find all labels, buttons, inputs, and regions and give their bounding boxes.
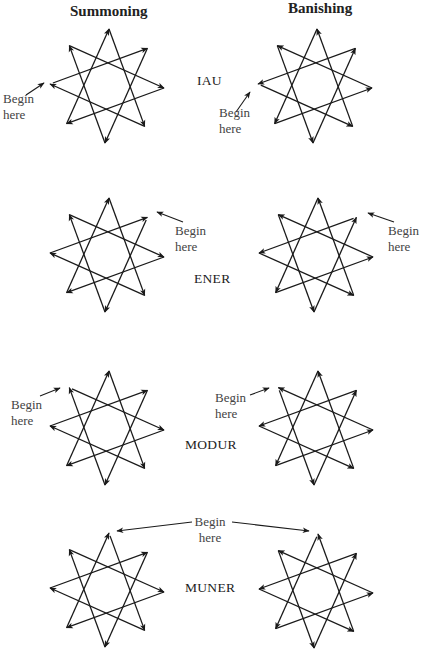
begin-label-line1: Begin xyxy=(219,105,250,121)
begin-here-label: Begin here xyxy=(11,397,42,429)
star-stroke-arrow xyxy=(109,29,145,126)
star-stroke-arrow xyxy=(50,588,145,630)
star-stroke-arrow xyxy=(67,29,109,124)
star-stroke-arrow xyxy=(105,552,147,647)
star-stroke-arrow xyxy=(69,46,164,88)
octagram-diagram xyxy=(0,0,421,661)
star-stroke-arrow xyxy=(67,430,164,466)
begin-here-label: Begin here xyxy=(3,91,34,123)
star-stroke-arrow xyxy=(50,552,147,588)
begin-label-line1: Begin xyxy=(215,390,246,406)
row-name-ener: ENER xyxy=(194,271,230,287)
star-stroke-arrow xyxy=(50,84,145,126)
star-stroke-arrow xyxy=(67,257,164,293)
begin-label-line2: here xyxy=(3,107,34,123)
begin-pointer-arrow xyxy=(157,212,183,222)
star-stroke-arrow xyxy=(314,553,356,648)
star-stroke-arrow xyxy=(69,388,105,485)
star-stroke-arrow xyxy=(276,257,373,293)
begin-label-line2: here xyxy=(215,406,246,422)
summoning-octagram-iau xyxy=(50,29,164,143)
star-stroke-arrow xyxy=(276,198,318,293)
star-stroke-arrow xyxy=(50,426,145,468)
star-stroke-arrow xyxy=(67,592,164,628)
star-stroke-arrow xyxy=(276,537,317,629)
begin-label-line1: Begin xyxy=(388,223,419,239)
banishing-octagram-ener xyxy=(259,198,373,312)
begin-label-line2: here xyxy=(11,413,42,429)
star-stroke-arrow xyxy=(318,371,354,468)
star-stroke-arrow xyxy=(275,88,372,124)
row-name-iau: IAU xyxy=(197,73,222,89)
begin-label-line1: Begin xyxy=(11,397,42,413)
star-stroke-arrow xyxy=(50,253,145,295)
star-stroke-arrow xyxy=(105,390,147,485)
star-stroke-arrow xyxy=(276,371,318,466)
star-stroke-arrow xyxy=(278,551,373,593)
star-stroke-arrow xyxy=(278,215,314,312)
begin-pointer-arrow xyxy=(250,388,269,395)
begin-label-line1: Begin xyxy=(175,223,206,239)
begin-pointer-arrow xyxy=(232,522,309,531)
star-stroke-arrow xyxy=(67,371,109,466)
star-stroke-arrow xyxy=(317,29,353,126)
star-stroke-arrow xyxy=(278,215,373,257)
begin-here-label: Begin here xyxy=(175,223,206,255)
summoning-octagram-ener xyxy=(50,198,164,312)
star-stroke-arrow xyxy=(69,215,105,312)
star-stroke-arrow xyxy=(50,217,147,253)
star-stroke-arrow xyxy=(313,48,355,143)
begin-pointer-arrow xyxy=(117,522,192,531)
begin-here-label: Begin here xyxy=(215,390,246,422)
star-stroke-arrow xyxy=(278,551,314,648)
begin-here-label: Begin here xyxy=(388,223,419,255)
star-stroke-arrow xyxy=(314,390,356,485)
star-stroke-arrow xyxy=(276,593,373,629)
star-stroke-arrow xyxy=(275,29,317,124)
star-stroke-arrow xyxy=(69,46,105,143)
begin-pointer-arrows xyxy=(26,83,394,531)
star-stroke-arrow xyxy=(278,388,373,430)
star-stroke-arrow xyxy=(69,215,164,257)
star-stroke-arrow xyxy=(105,48,147,143)
stars-layer xyxy=(50,29,373,648)
star-stroke-arrow xyxy=(259,426,354,468)
banishing-header: Banishing xyxy=(288,0,352,17)
star-stroke-arrow xyxy=(318,534,354,631)
star-stroke-arrow xyxy=(50,390,147,426)
summoning-header: Summoning xyxy=(70,3,148,20)
begin-here-label: Begin here xyxy=(194,514,226,546)
star-stroke-arrow xyxy=(261,85,353,126)
banishing-octagram-iau xyxy=(258,29,372,143)
banishing-octagram-muner xyxy=(259,534,373,648)
star-stroke-arrow xyxy=(67,533,109,628)
star-stroke-arrow xyxy=(110,536,145,631)
star-stroke-arrow xyxy=(109,198,145,295)
begin-label-line1: Begin xyxy=(3,91,34,107)
star-stroke-arrow xyxy=(276,430,373,466)
begin-pointer-arrow xyxy=(40,388,60,396)
begin-label-line2: here xyxy=(388,239,419,255)
row-name-muner: MUNER xyxy=(185,580,235,596)
star-stroke-arrow xyxy=(53,48,147,83)
begin-label-line2: here xyxy=(175,239,206,255)
star-stroke-arrow xyxy=(277,46,372,88)
star-stroke-arrow xyxy=(259,253,354,295)
begin-label-line2: here xyxy=(219,121,250,137)
star-stroke-arrow xyxy=(314,217,356,312)
star-stroke-arrow xyxy=(69,550,164,592)
star-stroke-arrow xyxy=(259,589,354,631)
star-stroke-arrow xyxy=(67,88,164,124)
row-name-modur: MODUR xyxy=(185,437,237,453)
star-stroke-arrow xyxy=(109,371,145,468)
star-stroke-arrow xyxy=(67,198,109,293)
star-stroke-arrow xyxy=(318,198,354,295)
begin-pointer-arrow xyxy=(368,213,394,222)
star-stroke-arrow xyxy=(69,550,105,647)
summoning-octagram-muner xyxy=(50,533,164,647)
star-stroke-arrow xyxy=(258,48,355,84)
star-stroke-arrow xyxy=(259,390,356,426)
banishing-octagram-modur xyxy=(259,371,373,485)
begin-label-line2: here xyxy=(194,530,226,546)
begin-here-label: Begin here xyxy=(219,105,250,137)
